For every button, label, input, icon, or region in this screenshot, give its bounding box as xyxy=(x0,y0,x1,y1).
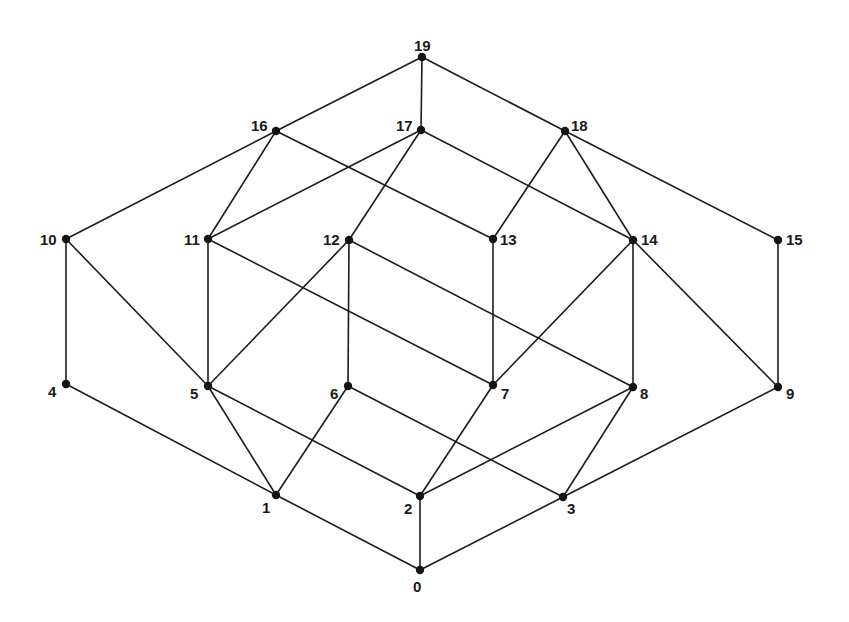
node-label-18: 18 xyxy=(571,117,588,134)
node-label-6: 6 xyxy=(330,385,338,402)
node-13 xyxy=(489,235,497,243)
node-14 xyxy=(629,236,637,244)
node-label-3: 3 xyxy=(567,500,575,517)
node-0 xyxy=(416,566,424,574)
node-9 xyxy=(774,383,782,391)
node-1 xyxy=(272,491,280,499)
node-2 xyxy=(416,492,424,500)
edge-7-2 xyxy=(420,385,493,496)
node-label-19: 19 xyxy=(414,37,431,54)
edge-10-5 xyxy=(66,239,208,386)
node-label-7: 7 xyxy=(501,385,509,402)
node-10 xyxy=(62,235,70,243)
edge-16-11 xyxy=(208,131,276,239)
node-label-2: 2 xyxy=(404,500,412,517)
edge-8-2 xyxy=(420,387,633,496)
node-11 xyxy=(204,235,212,243)
edge-14-7 xyxy=(493,240,633,385)
lattice-diagram: 012345678910111213141516171819 xyxy=(0,0,849,622)
edge-17-12 xyxy=(349,130,421,240)
node-17 xyxy=(417,126,425,134)
node-19 xyxy=(418,53,426,61)
node-label-9: 9 xyxy=(786,385,794,402)
edge-5-1 xyxy=(208,386,276,495)
node-16 xyxy=(272,127,280,135)
edge-11-7 xyxy=(208,239,493,385)
edge-12-5 xyxy=(208,240,349,386)
node-12 xyxy=(345,236,353,244)
node-label-17: 17 xyxy=(396,117,413,134)
edge-16-10 xyxy=(66,131,276,239)
node-15 xyxy=(774,236,782,244)
edge-17-11 xyxy=(208,130,421,239)
node-label-0: 0 xyxy=(413,578,421,595)
node-label-1: 1 xyxy=(262,499,270,516)
node-6 xyxy=(344,382,352,390)
edge-3-0 xyxy=(420,497,563,570)
edge-8-3 xyxy=(563,387,633,497)
edge-14-9 xyxy=(633,240,778,387)
node-label-4: 4 xyxy=(48,383,57,400)
node-3 xyxy=(559,493,567,501)
node-label-8: 8 xyxy=(640,385,648,402)
edge-4-1 xyxy=(66,384,276,495)
edge-17-14 xyxy=(421,130,633,240)
node-label-5: 5 xyxy=(190,385,198,402)
node-label-16: 16 xyxy=(251,117,268,134)
node-label-14: 14 xyxy=(641,231,658,248)
node-8 xyxy=(629,383,637,391)
edge-18-13 xyxy=(493,131,565,239)
node-label-10: 10 xyxy=(40,231,57,248)
edge-12-8 xyxy=(349,240,633,387)
node-4 xyxy=(62,380,70,388)
edge-18-15 xyxy=(565,131,778,240)
node-label-11: 11 xyxy=(184,231,200,248)
edge-5-2 xyxy=(208,386,420,496)
node-7 xyxy=(489,381,497,389)
node-5 xyxy=(204,382,212,390)
edge-6-1 xyxy=(276,386,348,495)
node-label-15: 15 xyxy=(786,231,803,248)
edge-1-0 xyxy=(276,495,420,570)
node-18 xyxy=(561,127,569,135)
edge-18-14 xyxy=(565,131,633,240)
edge-19-18 xyxy=(422,57,565,131)
edge-19-17 xyxy=(421,57,422,130)
node-label-13: 13 xyxy=(500,231,517,248)
edge-9-3 xyxy=(563,387,778,497)
nodes-layer xyxy=(62,53,782,574)
node-label-12: 12 xyxy=(323,231,340,248)
edge-12-6 xyxy=(348,240,349,386)
